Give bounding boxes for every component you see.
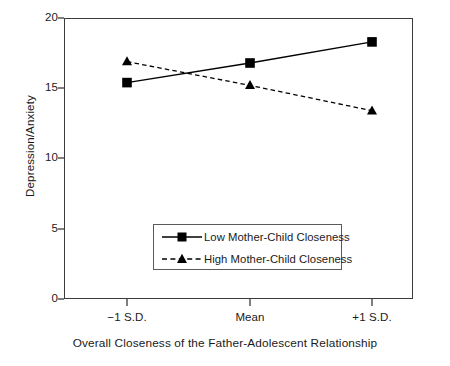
x-axis-title: Overall Closeness of the Father-Adolesce… [0, 336, 450, 350]
x-tick-label-minus1sd: −1 S.D. [72, 311, 182, 323]
y-axis-title: Depression/Anxiety [24, 46, 36, 246]
legend-entry-low: Low Mother-Child Closeness [154, 225, 343, 248]
legend-label-low: Low Mother-Child Closeness [204, 231, 350, 243]
legend-key-square-marker [160, 227, 204, 247]
chart-legend: Low Mother-Child Closeness High Mother-C… [153, 224, 342, 270]
chart-figure: 20 15 10 5 0 −1 S.D. Mean +1 S.D. Depres… [0, 0, 450, 366]
x-tick-label-plus1sd: +1 S.D. [317, 311, 427, 323]
legend-key-triangle-marker [160, 249, 204, 269]
legend-entry-high: High Mother-Child Closeness [154, 247, 343, 270]
x-tick-marks [127, 299, 372, 306]
y-tick-20: 20 [10, 12, 58, 24]
legend-label-high: High Mother-Child Closeness [204, 253, 352, 265]
y-tick-0: 0 [10, 293, 58, 305]
x-tick-label-mean: Mean [195, 311, 305, 323]
y-tick-label-0: 0 [12, 293, 58, 305]
y-tick-label-20: 20 [12, 12, 58, 24]
